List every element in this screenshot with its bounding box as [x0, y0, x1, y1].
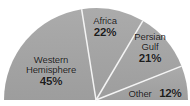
half-pie-chart: Western Hemisphere 45% Africa 22% Persia…: [0, 0, 190, 106]
pie-svg: [0, 0, 190, 106]
pie-slice-western-hemisphere: [4, 9, 96, 100]
